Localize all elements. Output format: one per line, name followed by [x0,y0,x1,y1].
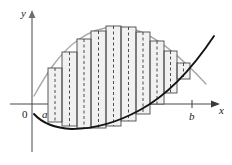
y-axis-label: y [20,7,26,19]
origin-label: 0 [22,108,28,120]
x-axis-label: x [218,104,224,116]
upper-limit-label: b [189,110,195,122]
midpoint-rectangle [91,31,106,128]
midpoint-rule-figure: y x 0 a b [0,0,232,165]
figure-canvas: y x 0 a b [0,0,232,165]
lower-limit-label: a [42,108,48,120]
